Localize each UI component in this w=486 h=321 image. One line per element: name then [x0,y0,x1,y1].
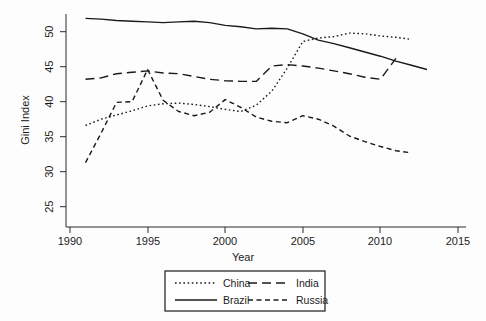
legend-label-russia: Russia [296,294,328,306]
chart-figure: 50 45 40 35 30 25 Gini Index 1990 1995 2… [0,0,486,321]
x-tick-label-1995: 1995 [136,235,160,247]
x-tick-label-1990: 1990 [58,235,82,247]
x-tick-label-2015: 2015 [446,235,470,247]
chart-svg: 50 45 40 35 30 25 Gini Index 1990 1995 2… [0,0,486,321]
legend-label-brazil: Brazil [223,294,249,306]
y-tick-label-30: 30 [43,166,55,178]
y-tick-label-45: 45 [43,61,55,73]
y-tick-label-40: 40 [43,96,55,108]
y-tick-label-50: 50 [43,26,55,38]
x-tick-label-2000: 2000 [213,235,237,247]
y-axis-title: Gini Index [19,95,31,145]
y-tick-label-25: 25 [43,201,55,213]
y-tick-label-35: 35 [43,131,55,143]
x-tick-label-2005: 2005 [291,235,315,247]
x-tick-label-2010: 2010 [368,235,392,247]
chart-legend: China India Brazil Russia [165,271,328,311]
legend-label-china: China [223,277,251,289]
legend-label-india: India [296,277,319,289]
x-axis-title: Year [232,251,255,263]
